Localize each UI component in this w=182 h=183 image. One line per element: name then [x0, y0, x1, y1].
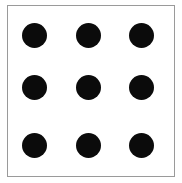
dot [22, 23, 47, 48]
dot [76, 23, 101, 48]
dot [129, 23, 154, 48]
dot [129, 133, 154, 158]
dot [22, 75, 47, 100]
dot [22, 133, 47, 158]
nine-dot-figure [0, 0, 182, 183]
dot [76, 133, 101, 158]
dot [76, 75, 101, 100]
dot [129, 75, 154, 100]
